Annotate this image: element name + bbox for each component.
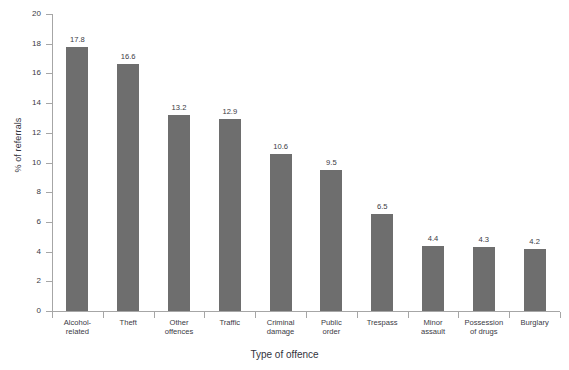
bar-chart: % of referrals 02468101214161820 17.816.… (0, 0, 569, 370)
bar (270, 154, 292, 311)
bar (66, 47, 88, 311)
y-axis-tick (46, 192, 52, 193)
bar-value-label: 17.8 (55, 36, 99, 44)
y-axis-tick (46, 163, 52, 164)
y-axis-tick-label: 8 (0, 188, 41, 196)
bar (371, 214, 393, 311)
y-axis-tick-label: 4 (0, 248, 41, 256)
bar (117, 64, 139, 311)
y-axis-tick-label: 18 (0, 40, 41, 48)
y-axis-tick (46, 14, 52, 15)
y-axis-tick (46, 252, 52, 253)
bar-value-label: 6.5 (360, 203, 404, 211)
x-axis-category-label: Burglary (503, 318, 567, 327)
bar-value-label: 4.2 (513, 238, 557, 246)
bar (524, 249, 546, 311)
y-axis-tick-label: 12 (0, 129, 41, 137)
y-axis-tick-label: 2 (0, 277, 41, 285)
y-axis-tick-label: 6 (0, 218, 41, 226)
bar (168, 115, 190, 311)
y-axis-tick (46, 281, 52, 282)
y-axis-tick (46, 133, 52, 134)
y-axis-tick-label: 20 (0, 10, 41, 18)
y-axis-line (52, 14, 53, 311)
bar (422, 246, 444, 311)
bar-value-label: 16.6 (106, 53, 150, 61)
y-axis-tick-label: 14 (0, 99, 41, 107)
bar-value-label: 4.4 (411, 235, 455, 243)
y-axis-tick (46, 103, 52, 104)
y-axis-tick (46, 44, 52, 45)
bar-value-label: 9.5 (309, 159, 353, 167)
y-axis-tick-label: 10 (0, 159, 41, 167)
bar (219, 119, 241, 311)
bar-value-label: 12.9 (208, 108, 252, 116)
y-axis-tick (46, 73, 52, 74)
y-axis-tick-label: 16 (0, 69, 41, 77)
bar (320, 170, 342, 311)
bar-value-label: 10.6 (259, 143, 303, 151)
x-axis-title: Type of offence (0, 349, 569, 360)
bar (473, 247, 495, 311)
bar-value-label: 4.3 (462, 236, 506, 244)
y-axis-tick-label: 0 (0, 307, 41, 315)
bar-value-label: 13.2 (157, 104, 201, 112)
y-axis-tick (46, 222, 52, 223)
